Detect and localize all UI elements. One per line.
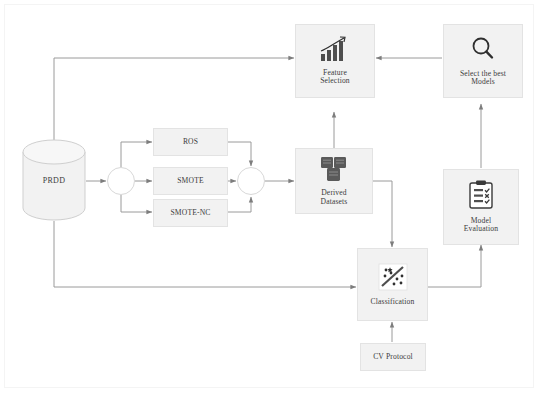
node-select-best-models-label: Select the best Models (458, 70, 508, 87)
merge-junction[interactable] (237, 167, 265, 195)
edge-derived-to-classification (372, 181, 392, 247)
stacked-datasets-icon (317, 156, 351, 187)
magnifier-icon (469, 35, 497, 67)
node-select-best-models[interactable]: Select the best Models (443, 24, 523, 98)
edge-classification-to-evaluation (428, 245, 481, 287)
edge-split-to-ros (121, 142, 152, 168)
bar-chart-trend-icon (319, 36, 351, 66)
edge-ros-to-merge (228, 142, 251, 166)
edge-split-to-smotenc (121, 195, 152, 212)
node-model-evaluation-label: Model Evaluation (462, 217, 500, 234)
node-cv-protocol[interactable]: CV Protocol (360, 343, 426, 371)
scatter-separator-icon (378, 263, 408, 295)
node-smote-label: SMOTE (175, 177, 206, 186)
clipboard-checklist-icon (467, 180, 495, 214)
node-derived-datasets[interactable]: Derived Datasets (295, 148, 373, 214)
node-classification[interactable]: Classification (357, 248, 428, 321)
flowchart-canvas: PRDD ROS SMOTE SMOTE-NC (0, 0, 542, 394)
node-model-evaluation[interactable]: Model Evaluation (443, 169, 519, 245)
node-cv-protocol-label: CV Protocol (371, 353, 415, 362)
node-prdd[interactable]: PRDD (22, 139, 86, 221)
node-feature-selection-label: Feature Selection (318, 69, 352, 86)
node-ros-label: ROS (181, 138, 200, 147)
node-smote-nc[interactable]: SMOTE-NC (153, 199, 228, 227)
node-prdd-label: PRDD (43, 176, 66, 185)
node-ros[interactable]: ROS (153, 128, 228, 156)
split-junction[interactable] (107, 167, 135, 195)
node-classification-label: Classification (369, 298, 417, 307)
node-smote[interactable]: SMOTE (153, 167, 228, 195)
edge-source-to-classification (54, 221, 356, 287)
node-smote-nc-label: SMOTE-NC (168, 209, 212, 218)
node-feature-selection[interactable]: Feature Selection (295, 24, 375, 98)
edge-smotenc-to-merge (228, 197, 251, 212)
node-derived-datasets-label: Derived Datasets (319, 189, 350, 206)
